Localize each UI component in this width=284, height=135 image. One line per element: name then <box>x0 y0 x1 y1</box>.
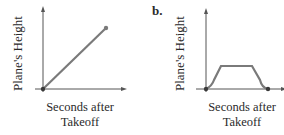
graph-a: Plane's Height Seconds after Takeoff <box>0 0 142 135</box>
start-point <box>41 87 45 91</box>
x-axis-label-line2: Takeoff <box>25 115 135 130</box>
x-axis-label-line1: Seconds after <box>187 100 284 115</box>
end-point <box>266 87 270 91</box>
x-axis-label: Seconds after Takeoff <box>25 100 135 130</box>
x-axis-arrow-icon <box>281 87 284 91</box>
end-point <box>104 26 108 30</box>
y-axis-arrow-icon <box>204 8 208 14</box>
x-axis-label: Seconds after Takeoff <box>187 100 284 130</box>
y-axis-arrow-icon <box>41 6 45 12</box>
start-point <box>204 87 208 91</box>
x-axis-label-line2: Takeoff <box>187 115 284 130</box>
y-axis-label: Plane's Height <box>172 16 188 91</box>
graph-b: b. Plane's Height Seconds after Takeoff <box>142 0 284 135</box>
x-axis-label-line1: Seconds after <box>25 100 135 115</box>
height-line <box>43 28 106 89</box>
x-axis-arrow-icon <box>121 87 127 91</box>
y-axis-label: Plane's Height <box>10 16 26 91</box>
height-curve <box>206 66 268 89</box>
